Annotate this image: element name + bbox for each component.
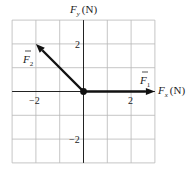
svg-text:F1: F1 [139,74,151,89]
vector-label-f2: F2 [22,51,34,68]
tick-label-y-neg2: −2 [69,134,80,145]
y-axis-label: Fy(N) [69,3,97,18]
x-axis-label: Fx(N) [157,84,185,99]
svg-text:F2: F2 [22,53,34,68]
origin-dot [80,88,87,95]
tick-label-x-2: 2 [128,95,133,106]
vector-label-f1: F1 [139,72,151,89]
tick-label-y-2: 2 [75,39,80,50]
tick-label-x-neg2: −2 [29,95,40,106]
vector-f2-shaft [42,50,83,91]
force-diagram: Fy(N) Fx(N) −2 2 2 −2 F1 F2 [0,0,187,171]
vectors [36,44,155,95]
